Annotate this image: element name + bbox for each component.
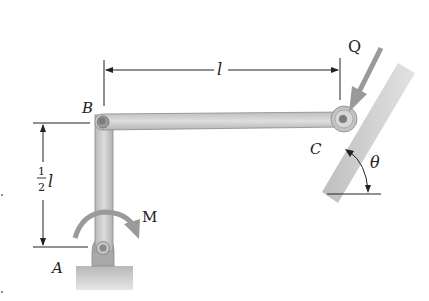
pin-b: [97, 116, 109, 128]
label-dim-var: l: [48, 172, 53, 191]
stray-mark: [1, 291, 3, 293]
label-m: M: [142, 208, 157, 226]
label-theta: θ: [370, 153, 380, 172]
inclined-surface: [322, 63, 415, 203]
bar-bc: [95, 112, 344, 130]
label-point-c: C: [310, 140, 322, 158]
label-point-b: B: [81, 99, 93, 117]
bar-ab: [95, 115, 113, 251]
label-dim-l: l: [217, 60, 222, 79]
ground-support: [76, 266, 133, 290]
label-dim-den: 2: [38, 181, 45, 194]
linkage-diagram: Q M l 1 2 l B A C θ: [0, 0, 429, 301]
label-q: Q: [348, 37, 361, 56]
pin-a: [97, 242, 110, 255]
stray-mark: [1, 194, 3, 196]
label-dim-num: 1: [38, 165, 45, 178]
roller-c: [331, 106, 357, 132]
label-point-a: A: [50, 259, 63, 277]
